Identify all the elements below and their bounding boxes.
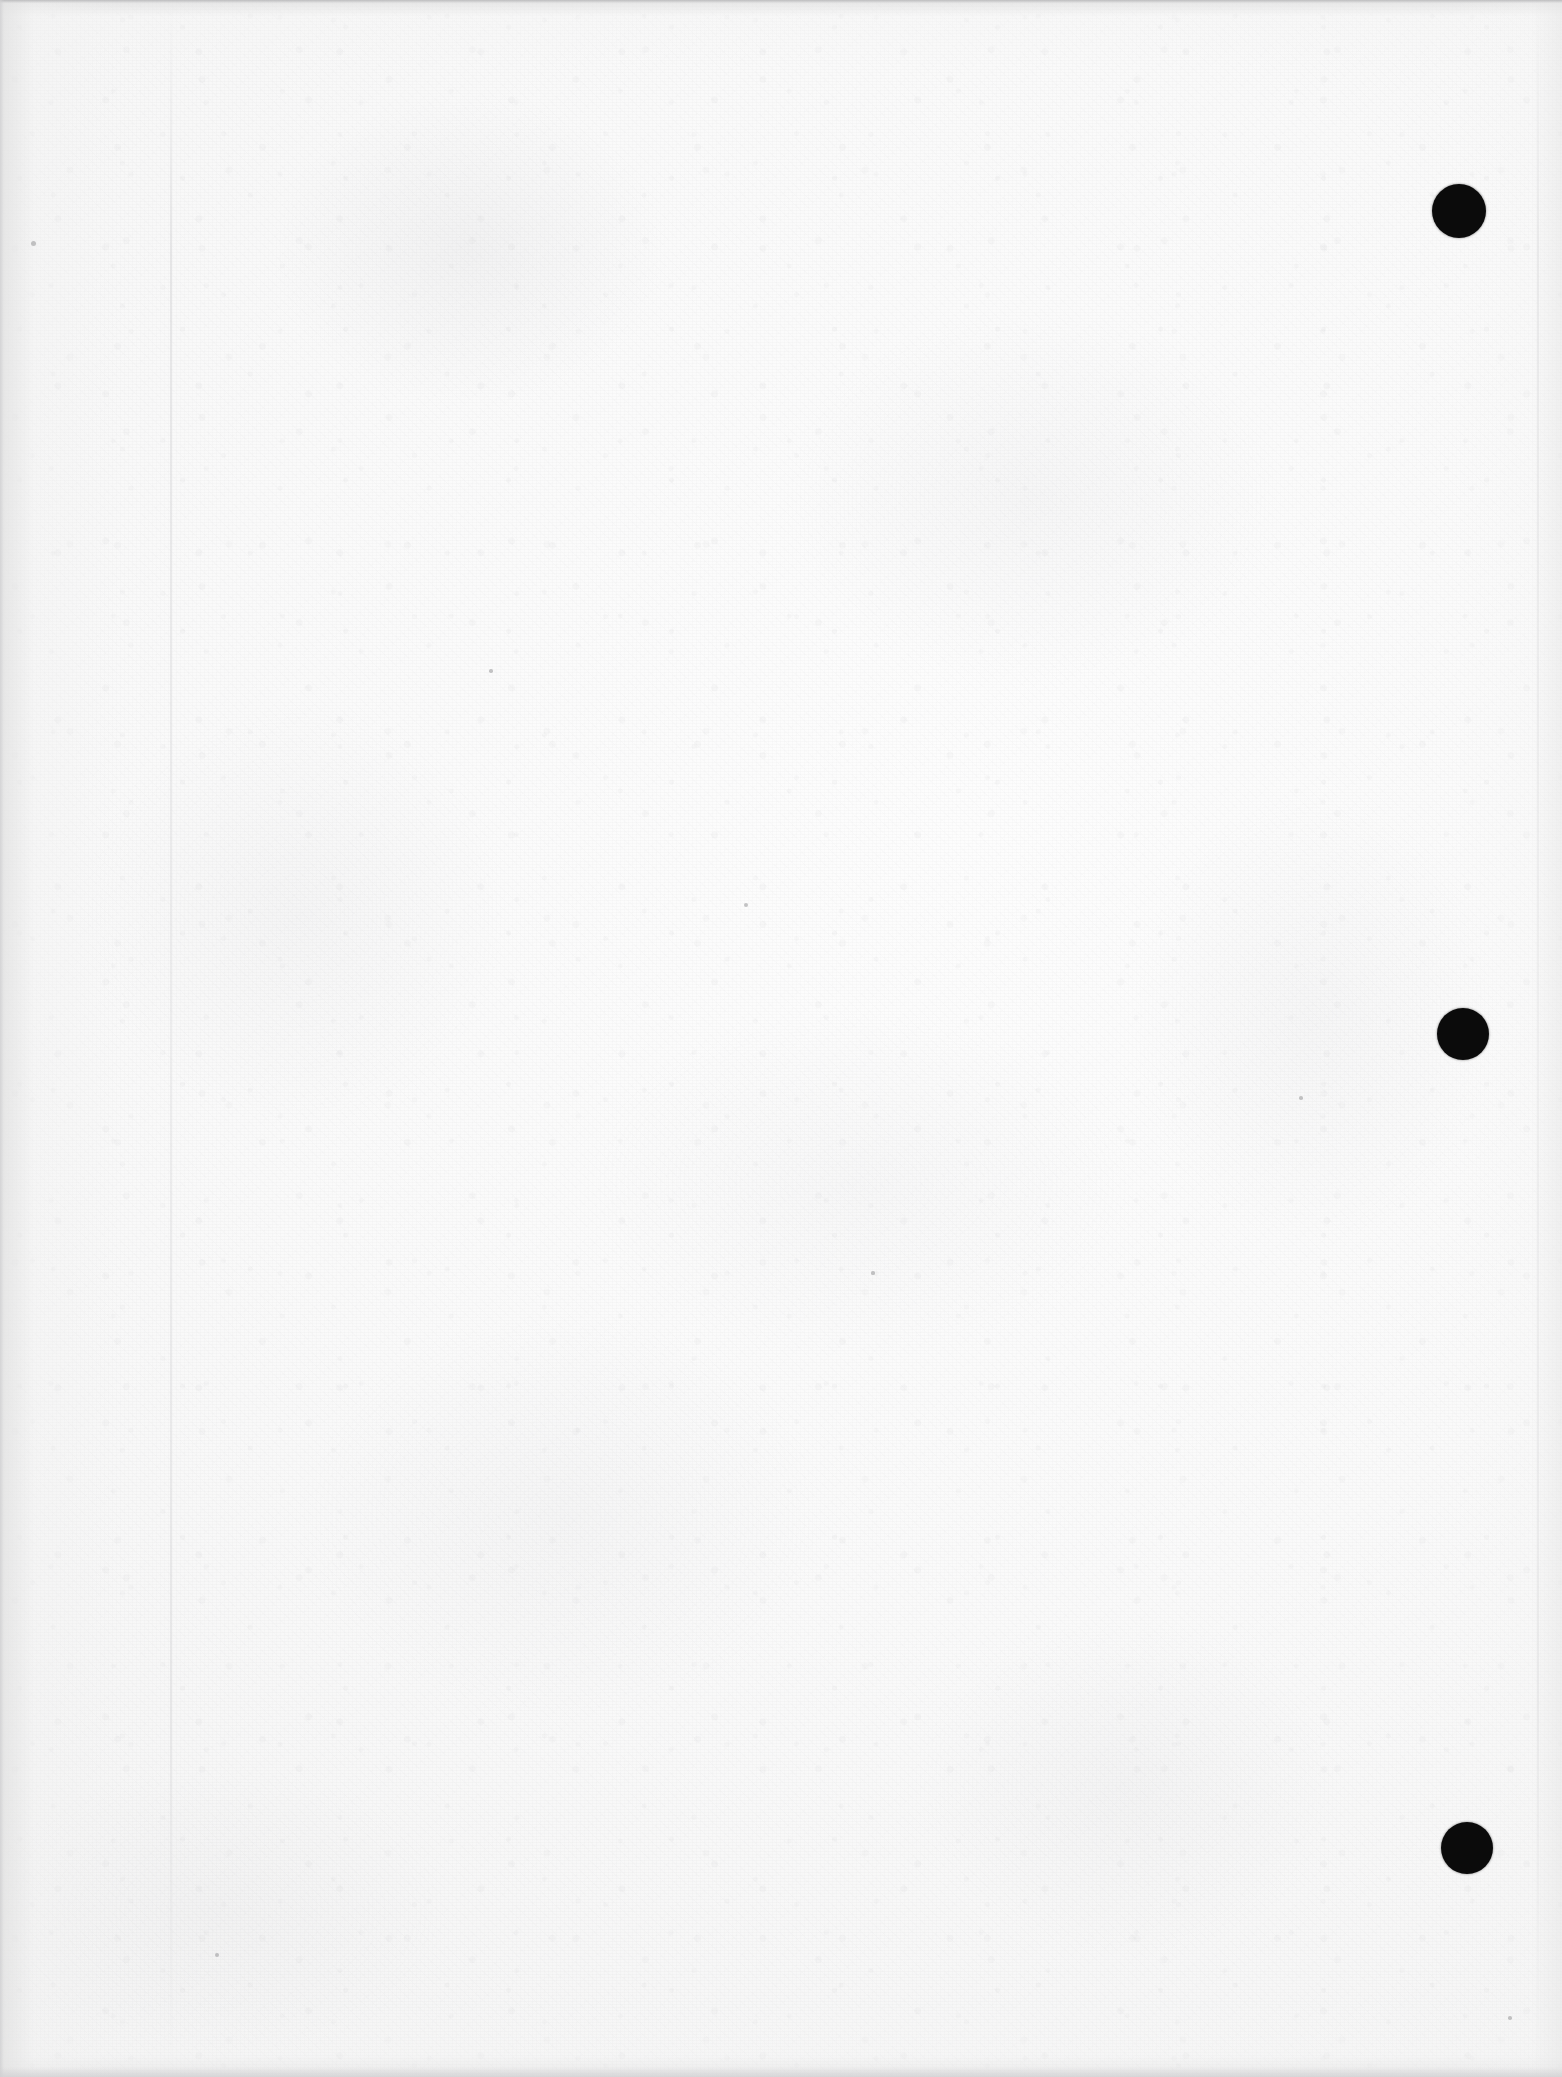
paper-edge-vignette bbox=[0, 0, 1562, 2077]
paper-speck bbox=[744, 903, 748, 907]
scan-edge-left bbox=[0, 0, 4, 2077]
punch-mark-top bbox=[1432, 184, 1486, 238]
crease-line-left bbox=[170, 0, 172, 2077]
paper-speck bbox=[31, 241, 36, 246]
scan-edge-top bbox=[0, 0, 1562, 3]
scanned-page bbox=[0, 0, 1562, 2077]
punch-mark-middle bbox=[1437, 1008, 1489, 1060]
punch-mark-bottom bbox=[1441, 1822, 1493, 1874]
crease-line-right bbox=[1537, 0, 1539, 2077]
paper-speck bbox=[1299, 1096, 1303, 1100]
paper-speck bbox=[1508, 2016, 1512, 2020]
paper-speck bbox=[871, 1271, 874, 1274]
scan-edge-bottom bbox=[0, 2067, 1562, 2077]
paper-speck bbox=[489, 669, 492, 672]
